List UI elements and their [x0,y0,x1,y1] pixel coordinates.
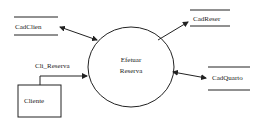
process-label-line2: Reserva [120,67,143,75]
data-store-cadquarto: CadQuarto [208,67,250,90]
data-store-cadreser: CadReser [190,10,230,26]
flow-process-cadreser [158,22,188,40]
data-store-label: CadClien [15,23,42,31]
external-entity-label: Cliente [24,97,44,105]
flow-process-cadquarto [173,72,206,78]
dfd-canvas: CadClien CadReser CadQuarto Efetuar Rese… [0,0,263,123]
data-store-cadclien: CadClien [14,17,58,35]
data-store-label: CadQuarto [212,74,243,82]
flow-label-cli-reserva: Cli_Reserva [35,62,70,70]
flow-cadclien-process [60,27,97,40]
flow-cliente-process [40,76,87,85]
data-store-label: CadReser [193,15,221,23]
process-efetuar-reserva: Efetuar Reserva [88,27,174,107]
process-label-line1: Efetuar [121,56,142,64]
external-entity-cliente: Cliente [18,85,61,117]
